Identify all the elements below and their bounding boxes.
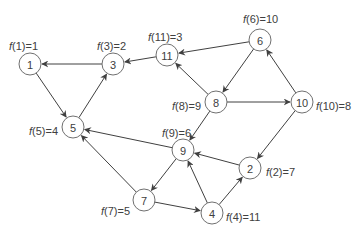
- edge-4-to-9: [188, 161, 207, 203]
- node-3: 3: [102, 53, 124, 75]
- function-value: (5)=4: [32, 125, 58, 137]
- node-label: 6: [257, 35, 263, 47]
- edge-9-to-7: [151, 159, 176, 191]
- node-1: 1: [19, 53, 41, 75]
- node-label: 9: [180, 145, 186, 157]
- node-7: 7: [133, 189, 155, 211]
- function-value: (7)=5: [104, 205, 130, 217]
- function-value: (4)=11: [229, 211, 260, 223]
- edge-8-to-9: [190, 111, 210, 140]
- node-4: 4: [201, 202, 223, 224]
- node-8-value-label: f(8)=9: [172, 100, 201, 112]
- node-9: 9: [172, 139, 194, 161]
- node-label: 1: [27, 59, 33, 71]
- node-5-value-label: f(5)=4: [29, 125, 58, 137]
- edge-11-to-3: [125, 57, 156, 62]
- node-label: 7: [141, 195, 147, 207]
- node-10-value-label: f(10)=8: [316, 100, 351, 112]
- edge-8-to-11: [176, 63, 208, 94]
- edge-4-to-2: [219, 177, 242, 204]
- node-label: 4: [209, 208, 215, 220]
- node-3-value-label: f(3)=2: [97, 40, 126, 52]
- edge-9-to-5: [85, 130, 173, 148]
- node-2-value-label: f(2)=7: [266, 166, 295, 178]
- node-10: 10: [291, 91, 313, 113]
- function-value: (6)=10: [246, 13, 278, 25]
- function-value: (9)=6: [165, 127, 191, 139]
- function-value: (3)=2: [100, 40, 126, 52]
- function-value: (1)=1: [12, 40, 38, 52]
- function-value: (2)=7: [269, 166, 295, 178]
- edge-10-to-2: [257, 111, 295, 159]
- directed-graph-diagram: 1311681059274 f(1)=1f(3)=2f(11)=3f(6)=10…: [0, 0, 363, 235]
- edge-6-to-11: [179, 42, 249, 53]
- function-value: (8)=9: [175, 100, 201, 112]
- node-label: 8: [213, 97, 219, 109]
- edge-1-to-5: [36, 73, 66, 117]
- node-label: 3: [110, 59, 116, 71]
- edge-7-to-5: [81, 136, 136, 193]
- node-6-value-label: f(6)=10: [243, 13, 278, 25]
- node-4-value-label: f(4)=11: [226, 211, 260, 223]
- function-value: (11)=3: [151, 31, 182, 43]
- node-9-value-label: f(9)=6: [162, 127, 191, 139]
- function-value: (10)=8: [319, 100, 351, 112]
- edge-10-to-6: [267, 50, 296, 93]
- node-label: 2: [247, 163, 253, 175]
- node-11-value-label: f(11)=3: [148, 31, 182, 43]
- edge-5-to-3: [79, 74, 107, 118]
- node-2: 2: [239, 157, 261, 179]
- node-label: 10: [296, 97, 308, 109]
- edge-7-to-4: [155, 202, 200, 211]
- edge-2-to-9: [195, 153, 240, 165]
- node-label: 5: [70, 122, 76, 134]
- labels-layer: f(1)=1f(3)=2f(11)=3f(6)=10f(8)=9f(10)=8f…: [9, 13, 351, 223]
- node-11: 11: [156, 44, 178, 66]
- node-7-value-label: f(7)=5: [101, 205, 130, 217]
- edge-6-to-8: [223, 49, 254, 92]
- node-6: 6: [249, 29, 271, 51]
- node-1-value-label: f(1)=1: [9, 40, 38, 52]
- node-label: 11: [161, 50, 172, 62]
- node-8: 8: [205, 91, 227, 113]
- node-5: 5: [62, 116, 84, 138]
